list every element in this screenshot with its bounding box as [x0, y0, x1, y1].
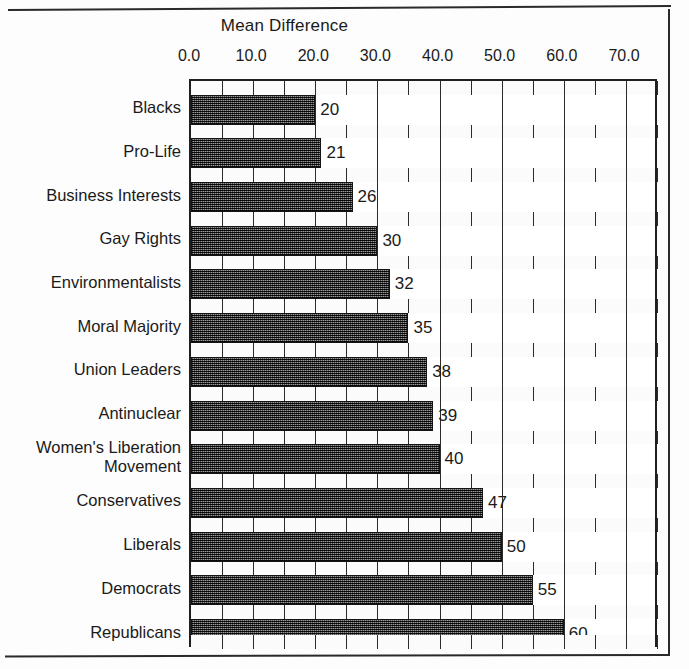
- grid-tick-60: [564, 518, 565, 532]
- grid-tick-15: [284, 168, 285, 182]
- grid-tick-55: [533, 125, 534, 139]
- grid-tick-65: [595, 431, 596, 445]
- bar[interactable]: [191, 488, 483, 518]
- grid-tick-15: [284, 635, 285, 649]
- bar[interactable]: [191, 182, 353, 212]
- grid-tick-10: [253, 212, 254, 226]
- grid-tick-15: [284, 518, 285, 532]
- bar[interactable]: [191, 95, 315, 125]
- grid-tick-70: [626, 387, 627, 401]
- bar[interactable]: [191, 444, 440, 474]
- grid-tick-20: [315, 343, 316, 357]
- grid-tick-75: [657, 256, 658, 270]
- grid-tick-15: [284, 431, 285, 445]
- bar[interactable]: [191, 575, 533, 605]
- grid-tick-65: [595, 474, 596, 488]
- x-tick-label-40: 40.0: [422, 47, 453, 65]
- frame-top-border: [8, 5, 671, 11]
- grid-tick-55: [533, 518, 534, 532]
- grid-tick-40: [440, 168, 441, 182]
- grid-tick-30: [377, 212, 378, 226]
- grid-tick-25: [346, 605, 347, 619]
- grid-gap-row: [191, 387, 655, 401]
- grid-tick-25: [346, 431, 347, 445]
- grid-tick-30: [377, 81, 378, 95]
- grid-tick-60: [564, 212, 565, 226]
- grid-tick-5: [222, 474, 223, 488]
- category-label: Conservatives: [0, 491, 189, 510]
- grid-tick-30: [377, 518, 378, 532]
- bar[interactable]: [191, 401, 433, 431]
- grid-tick-50: [502, 256, 503, 270]
- bar-row: 38: [191, 357, 655, 387]
- bar[interactable]: [191, 313, 408, 343]
- grid-tick-15: [284, 299, 285, 313]
- grid-tick-25: [346, 635, 347, 649]
- grid-tick-45: [471, 81, 472, 95]
- grid-tick-50: [502, 387, 503, 401]
- category-label: Republicans: [0, 623, 189, 642]
- grid-tick-40: [440, 299, 441, 313]
- x-tick-label-50: 50.0: [484, 47, 515, 65]
- grid-tick-75: [657, 125, 658, 139]
- category-label: Gay Rights: [0, 229, 189, 248]
- grid-tick-50: [502, 81, 503, 95]
- grid-tick-45: [471, 518, 472, 532]
- grid-tick-30: [377, 256, 378, 270]
- bar[interactable]: [191, 357, 427, 387]
- grid-tick-10: [253, 562, 254, 576]
- grid-tick-65: [595, 81, 596, 95]
- grid-tick-35: [408, 518, 409, 532]
- grid-tick-65: [595, 605, 596, 619]
- grid-tick-10: [253, 431, 254, 445]
- grid-tick-75: [657, 299, 658, 313]
- bar-row: 32: [191, 269, 655, 299]
- grid-tick-40: [440, 605, 441, 619]
- bar-value-label: 26: [353, 187, 377, 207]
- grid-tick-55: [533, 387, 534, 401]
- bar[interactable]: [191, 532, 502, 562]
- category-label: Women's Liberation Movement: [0, 438, 189, 476]
- bar-row: 26: [191, 182, 655, 212]
- grid-tick-15: [284, 387, 285, 401]
- grid-tick-20: [315, 518, 316, 532]
- grid-tick-65: [595, 256, 596, 270]
- grid-tick-5: [222, 81, 223, 95]
- grid-tick-55: [533, 256, 534, 270]
- grid-tick-75: [657, 605, 658, 619]
- bar-value-label: 38: [427, 362, 451, 382]
- grid-tick-60: [564, 343, 565, 357]
- grid-tick-5: [222, 635, 223, 649]
- grid-tick-45: [471, 562, 472, 576]
- grid-tick-70: [626, 125, 627, 139]
- bar[interactable]: [191, 226, 377, 256]
- grid-tick-70: [626, 562, 627, 576]
- grid-tick-35: [408, 81, 409, 95]
- grid-gap-row: [191, 81, 655, 95]
- grid-tick-60: [564, 605, 565, 619]
- grid-tick-5: [222, 212, 223, 226]
- grid-tick-20: [315, 125, 316, 139]
- grid-tick-50: [502, 168, 503, 182]
- grid-tick-60: [564, 387, 565, 401]
- frame-right-border: [668, 9, 670, 656]
- grid-tick-5: [222, 256, 223, 270]
- grid-tick-45: [471, 125, 472, 139]
- grid-tick-70: [626, 343, 627, 357]
- grid-tick-65: [595, 168, 596, 182]
- grid-tick-55: [533, 474, 534, 488]
- bar-value-label: 35: [408, 318, 432, 338]
- grid-tick-40: [440, 518, 441, 532]
- grid-gap-row: [191, 299, 655, 313]
- category-label: Antinuclear: [0, 404, 189, 423]
- category-label: Blacks: [0, 98, 189, 117]
- grid-gap-row: [191, 256, 655, 270]
- grid-tick-75: [657, 81, 658, 95]
- grid-tick-5: [222, 387, 223, 401]
- grid-tick-20: [315, 256, 316, 270]
- grid-tick-25: [346, 125, 347, 139]
- grid-tick-30: [377, 387, 378, 401]
- grid-tick-35: [408, 431, 409, 445]
- bar[interactable]: [191, 269, 390, 299]
- bar[interactable]: [191, 138, 321, 168]
